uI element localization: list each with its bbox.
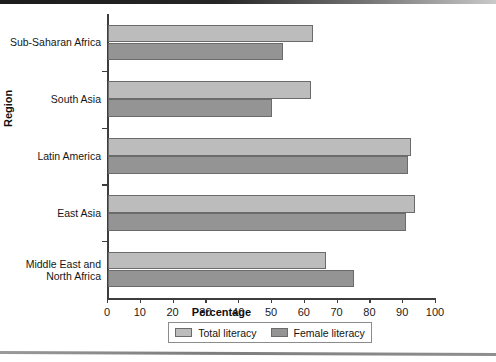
legend-swatch-total-literacy bbox=[175, 328, 192, 337]
y-tick-mark bbox=[102, 71, 107, 72]
bar bbox=[108, 252, 326, 270]
plot-area: 0102030405060708090100 bbox=[107, 14, 435, 298]
x-tick-mark bbox=[238, 298, 239, 303]
x-tick-label: 90 bbox=[396, 306, 408, 318]
y-axis-category-label: Sub-Saharan Africa bbox=[10, 36, 101, 48]
scan-top-band bbox=[0, 0, 496, 4]
x-tick-mark bbox=[402, 298, 403, 303]
chart-page: Region Percentage 0102030405060708090100… bbox=[0, 0, 496, 362]
y-axis-category-label: East Asia bbox=[57, 207, 101, 219]
x-tick-mark bbox=[205, 298, 206, 303]
y-tick-mark bbox=[102, 241, 107, 242]
x-tick-label: 0 bbox=[104, 306, 110, 318]
x-tick-label: 10 bbox=[134, 306, 146, 318]
legend-label-total-literacy: Total literacy bbox=[198, 327, 256, 339]
bar bbox=[108, 195, 415, 213]
legend-item-total-literacy[interactable]: Total literacy bbox=[175, 327, 256, 339]
bar bbox=[108, 270, 354, 288]
x-tick-label: 100 bbox=[426, 306, 444, 318]
x-tick-label: 70 bbox=[330, 306, 342, 318]
y-tick-mark bbox=[102, 128, 107, 129]
bar bbox=[108, 43, 283, 61]
x-tick-mark bbox=[369, 298, 370, 303]
x-tick-label: 20 bbox=[166, 306, 178, 318]
x-tick-mark bbox=[337, 298, 338, 303]
legend-swatch-female-literacy bbox=[271, 328, 288, 337]
y-axis-category-label: Latin America bbox=[37, 150, 101, 162]
bar bbox=[108, 213, 406, 231]
bar bbox=[108, 81, 311, 99]
legend-label-female-literacy: Female literacy bbox=[294, 327, 365, 339]
scan-bottom-rule bbox=[0, 351, 496, 356]
bar bbox=[108, 138, 411, 156]
y-axis-category-label: South Asia bbox=[51, 93, 101, 105]
x-tick-label: 30 bbox=[199, 306, 211, 318]
x-tick-mark bbox=[107, 298, 108, 303]
bar bbox=[108, 99, 272, 117]
x-tick-label: 40 bbox=[232, 306, 244, 318]
x-tick-label: 50 bbox=[265, 306, 277, 318]
bar bbox=[108, 156, 408, 174]
x-tick-label: 60 bbox=[298, 306, 310, 318]
x-tick-mark bbox=[140, 298, 141, 303]
bar bbox=[108, 25, 313, 43]
chart-legend[interactable]: Total literacy Female literacy bbox=[168, 322, 372, 343]
y-tick-mark bbox=[102, 184, 107, 185]
x-axis-title: Percentage bbox=[0, 306, 496, 318]
x-tick-mark bbox=[435, 298, 436, 303]
y-axis-category-label: Middle East and North Africa bbox=[26, 258, 101, 282]
x-tick-label: 80 bbox=[363, 306, 375, 318]
legend-item-female-literacy[interactable]: Female literacy bbox=[271, 327, 365, 339]
x-tick-mark bbox=[304, 298, 305, 303]
y-axis-title: Region bbox=[2, 90, 14, 127]
x-tick-mark bbox=[271, 298, 272, 303]
x-tick-mark bbox=[173, 298, 174, 303]
